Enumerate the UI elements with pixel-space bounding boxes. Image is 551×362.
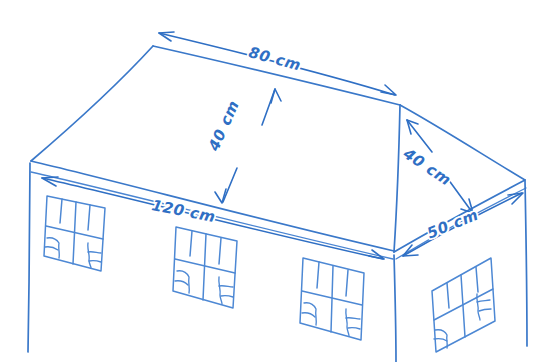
window-mullion-vertical <box>331 266 333 332</box>
window-pane-crack <box>346 318 360 319</box>
arrowhead-up <box>271 89 281 103</box>
window-front-middle <box>173 227 237 308</box>
window-pane-divider <box>317 262 319 288</box>
window-pane-divider <box>447 283 449 308</box>
window-front-left <box>44 196 105 271</box>
window-pane-divider <box>88 205 90 230</box>
window-mullion-vertical <box>203 234 206 300</box>
window-pane-crack <box>45 247 58 250</box>
window-pane-crack <box>477 300 490 302</box>
dimension-line <box>223 168 237 202</box>
window-pane-crack <box>479 309 491 311</box>
house-diagram: 80 cm 120 cm 40 cm 40 cm 50 cm <box>0 0 551 362</box>
wall-right-corner-edge <box>525 181 527 346</box>
window-pane-crack <box>88 252 101 253</box>
window-pane-crack <box>89 261 101 262</box>
window-pane-crack <box>302 313 315 317</box>
wall-front-right-corner-edge <box>394 255 396 362</box>
wall-left-corner-edge <box>28 163 30 352</box>
window-front-right <box>300 258 364 340</box>
window-pane-crack <box>219 286 233 287</box>
window-pane-crack <box>88 243 91 268</box>
window-pane-crack <box>346 309 349 336</box>
arrowhead-right <box>381 85 396 95</box>
window-pane-divider <box>219 238 221 264</box>
window-pane-crack <box>175 281 188 285</box>
window-pane-divider <box>60 199 62 223</box>
window-pane-divider <box>346 270 348 296</box>
window-right-face <box>432 258 495 352</box>
window-pane-divider <box>476 267 478 292</box>
window-pane-crack <box>221 296 233 297</box>
window-pane-crack <box>219 277 222 304</box>
window-pane-crack <box>477 294 480 320</box>
arrowhead-down <box>215 189 226 203</box>
roof-left-hip-edge <box>31 46 153 161</box>
roof-right-hip-front-edge <box>394 105 400 252</box>
window-pane-crack <box>348 328 360 329</box>
roof-front-eave-edge <box>31 161 394 251</box>
window-pane-divider <box>190 231 192 256</box>
